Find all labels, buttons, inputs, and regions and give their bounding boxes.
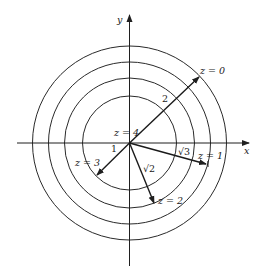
- label-z1: z = 1: [197, 150, 223, 161]
- label-z3: z = 3: [74, 157, 100, 168]
- length-label-1: 1: [111, 143, 117, 154]
- length-label-sqrt2: √2: [143, 163, 155, 174]
- vector-z0: [130, 77, 200, 143]
- x-axis-label: x: [244, 145, 250, 156]
- length-label-2: 2: [162, 93, 168, 104]
- diagram-canvas: y x z = 0 z = 1 z = 2 z = 3 z = 4 2 √3 √…: [0, 0, 265, 280]
- label-z0: z = 0: [199, 65, 225, 76]
- y-axis-label: y: [116, 14, 123, 25]
- label-z2: z = 2: [157, 195, 183, 206]
- label-z4: z = 4: [113, 127, 139, 138]
- level-curve-diagram: y x z = 0 z = 1 z = 2 z = 3 z = 4 2 √3 √…: [0, 0, 265, 280]
- length-label-sqrt3: √3: [178, 146, 190, 157]
